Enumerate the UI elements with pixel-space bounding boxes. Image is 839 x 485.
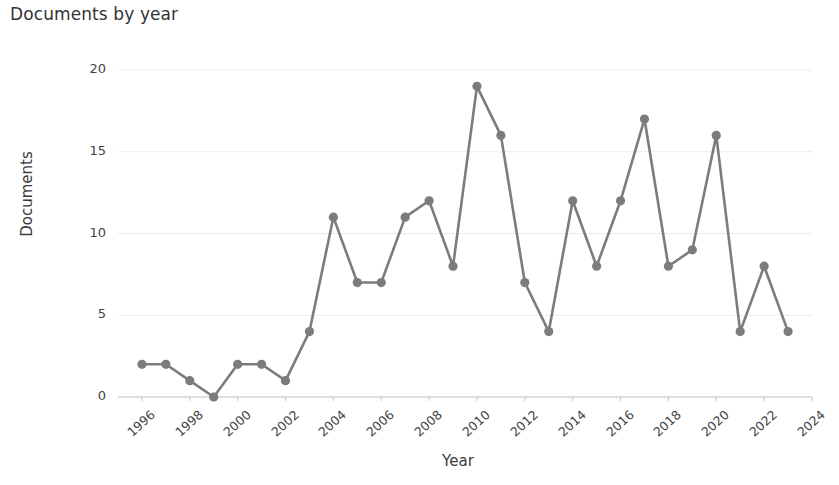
- data-point[interactable]: [520, 278, 529, 287]
- y-tick-label: 5: [66, 306, 106, 321]
- data-point[interactable]: [592, 262, 601, 271]
- plot-area: [0, 0, 839, 485]
- data-point[interactable]: [736, 327, 745, 336]
- data-point[interactable]: [233, 360, 242, 369]
- gridlines: [118, 70, 812, 397]
- data-line-documents: [142, 86, 788, 397]
- data-point[interactable]: [425, 196, 434, 205]
- data-point[interactable]: [353, 278, 362, 287]
- data-point[interactable]: [616, 196, 625, 205]
- y-tick-label: 20: [66, 61, 106, 76]
- data-point[interactable]: [760, 262, 769, 271]
- data-point[interactable]: [137, 360, 146, 369]
- data-point[interactable]: [544, 327, 553, 336]
- data-point[interactable]: [161, 360, 170, 369]
- data-point[interactable]: [448, 262, 457, 271]
- data-point[interactable]: [305, 327, 314, 336]
- data-point[interactable]: [401, 213, 410, 222]
- data-point[interactable]: [712, 131, 721, 140]
- y-tick-label: 15: [66, 143, 106, 158]
- data-point[interactable]: [472, 82, 481, 91]
- y-tick-label: 10: [66, 225, 106, 240]
- data-point[interactable]: [329, 213, 338, 222]
- data-point[interactable]: [783, 327, 792, 336]
- data-point[interactable]: [209, 392, 218, 401]
- data-point[interactable]: [568, 196, 577, 205]
- data-point[interactable]: [496, 131, 505, 140]
- data-point[interactable]: [377, 278, 386, 287]
- data-point[interactable]: [640, 114, 649, 123]
- data-point[interactable]: [281, 376, 290, 385]
- documents-by-year-chart: Documents by year Documents Year 0510152…: [0, 0, 839, 485]
- data-point[interactable]: [688, 245, 697, 254]
- data-point[interactable]: [257, 360, 266, 369]
- y-tick-label: 0: [66, 388, 106, 403]
- data-point[interactable]: [664, 262, 673, 271]
- data-point[interactable]: [185, 376, 194, 385]
